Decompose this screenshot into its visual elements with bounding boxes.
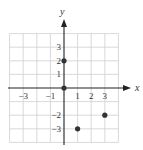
data-point [75,126,80,131]
x-tick-label: 2 [89,91,94,101]
data-points [61,58,107,131]
x-axis-arrow-icon [123,85,131,91]
x-tick-label: −3 [18,91,28,101]
y-tick-label: 3 [57,42,62,52]
y-tick-label: −2 [51,110,61,120]
y-tick-label: 2 [57,56,62,66]
y-axis-label: y [59,6,65,17]
data-point [61,58,66,63]
coordinate-plane: x y −3−1123321−2−3 [0,0,143,150]
x-axis-label: x [134,82,140,93]
data-point [61,85,66,90]
x-tick-label: 1 [75,91,80,101]
y-axis-arrow-icon [61,19,67,27]
x-tick-label: 3 [103,91,108,101]
data-point [102,113,107,118]
x-tick-label: −1 [46,91,56,101]
y-tick-label: 1 [57,69,62,79]
y-tick-label: −3 [51,124,61,134]
